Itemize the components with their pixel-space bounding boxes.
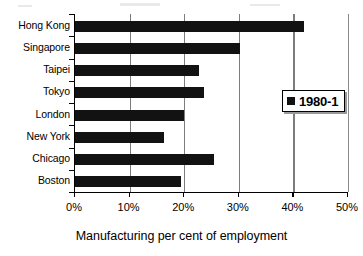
- y-tick-6: [69, 148, 74, 149]
- category-label-tokyo: Tokyo: [0, 86, 70, 97]
- category-label-boston: Boston: [0, 175, 70, 186]
- x-axis-line: [74, 192, 348, 193]
- y-tick-0: [69, 14, 74, 15]
- legend-label-1980-1: 1980-1: [299, 94, 338, 109]
- x-tick-label-30%: 30%: [216, 201, 260, 214]
- category-label-chicago: Chicago: [0, 153, 70, 164]
- category-label-taipei: Taipei: [0, 64, 70, 75]
- x-tick-0%: [74, 192, 75, 197]
- category-label-london: London: [0, 109, 70, 120]
- x-tick-30%: [238, 192, 239, 197]
- category-label-new-york: New York: [0, 131, 70, 142]
- bar-new-york: [75, 132, 164, 143]
- bar-singapore: [75, 43, 240, 54]
- x-tick-label-40%: 40%: [270, 201, 314, 214]
- legend-swatch-1980-1: [287, 97, 295, 105]
- y-tick-1: [69, 36, 74, 37]
- scan-speckle: [250, 4, 280, 6]
- bar-hong-kong: [75, 21, 304, 32]
- x-tick-10%: [129, 192, 130, 197]
- gridline-30%: [239, 14, 240, 192]
- gridline-10%: [130, 14, 131, 192]
- bar-chart-figure: Hong KongSingaporeTaipeiTokyoLondonNew Y…: [0, 0, 363, 256]
- category-axis: Hong KongSingaporeTaipeiTokyoLondonNew Y…: [0, 14, 70, 192]
- y-tick-4: [69, 103, 74, 104]
- bar-london: [75, 110, 184, 121]
- chart-legend: 1980-1: [282, 90, 345, 112]
- x-tick-50%: [347, 192, 348, 197]
- scan-speckle: [120, 3, 160, 6]
- y-tick-5: [69, 125, 74, 126]
- gridline-20%: [184, 14, 185, 192]
- x-tick-40%: [292, 192, 293, 197]
- scan-speckle: [18, 5, 32, 7]
- x-axis-title: Manufacturing per cent of employment: [0, 229, 363, 243]
- bar-taipei: [75, 65, 199, 76]
- category-label-singapore: Singapore: [0, 42, 70, 53]
- bar-tokyo: [75, 87, 204, 98]
- x-tick-label-0%: 0%: [52, 201, 96, 214]
- y-tick-2: [69, 59, 74, 60]
- y-tick-3: [69, 81, 74, 82]
- x-tick-label-20%: 20%: [161, 201, 205, 214]
- category-label-hong-kong: Hong Kong: [0, 20, 70, 31]
- y-tick-7: [69, 170, 74, 171]
- bar-chicago: [75, 154, 214, 165]
- bar-boston: [75, 176, 181, 187]
- x-tick-20%: [183, 192, 184, 197]
- x-tick-label-50%: 50%: [325, 201, 363, 214]
- y-tick-baseline: [69, 192, 74, 193]
- x-tick-label-10%: 10%: [107, 201, 151, 214]
